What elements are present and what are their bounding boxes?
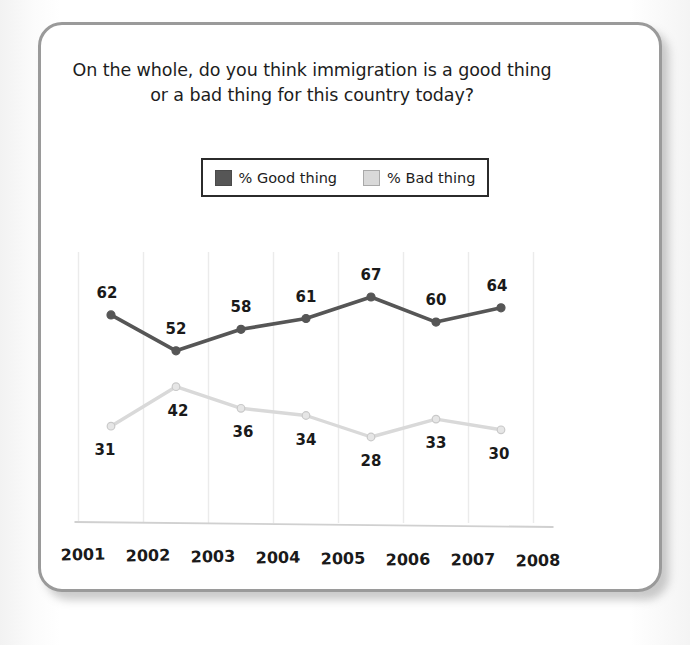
legend-swatch-icon-bad bbox=[363, 170, 380, 186]
data-label: 67 bbox=[361, 266, 382, 284]
data-label: 52 bbox=[166, 320, 187, 338]
data-label: 36 bbox=[233, 423, 254, 441]
chart-page: On the whole, do you think immigration i… bbox=[0, 0, 690, 645]
x-axis-label: 2007 bbox=[450, 550, 495, 570]
data-label: 61 bbox=[296, 288, 317, 306]
legend-label-good: % Good thing bbox=[239, 170, 337, 186]
legend-item-bad-thing: % Bad thing bbox=[363, 170, 475, 186]
legend-swatch-icon-good bbox=[215, 170, 232, 186]
data-label: 42 bbox=[168, 402, 189, 420]
chart-title: On the whole, do you think immigration i… bbox=[60, 58, 564, 108]
x-axis-label: 2008 bbox=[515, 551, 560, 571]
data-label: 64 bbox=[487, 277, 508, 295]
x-axis-label: 2005 bbox=[320, 548, 365, 568]
data-label: 62 bbox=[97, 284, 118, 302]
data-label: 58 bbox=[231, 298, 252, 316]
legend-item-good-thing: % Good thing bbox=[215, 170, 337, 186]
chart-legend: % Good thing % Bad thing bbox=[201, 158, 489, 197]
data-label: 30 bbox=[489, 445, 510, 463]
x-axis-label: 2004 bbox=[255, 547, 300, 567]
x-axis-label: 2003 bbox=[190, 546, 235, 566]
legend-label-bad: % Bad thing bbox=[387, 170, 475, 186]
data-label: 33 bbox=[426, 434, 447, 452]
chart-title-line-2: or a bad thing for this country today? bbox=[60, 83, 564, 108]
data-label: 60 bbox=[426, 291, 447, 309]
data-label: 34 bbox=[296, 431, 317, 449]
x-axis-label: 2002 bbox=[125, 546, 170, 566]
data-label: 31 bbox=[95, 441, 116, 459]
x-axis-label: 2001 bbox=[60, 545, 105, 565]
chart-title-line-1: On the whole, do you think immigration i… bbox=[60, 58, 564, 83]
x-axis-label: 2006 bbox=[385, 549, 430, 569]
data-label: 28 bbox=[361, 452, 382, 470]
